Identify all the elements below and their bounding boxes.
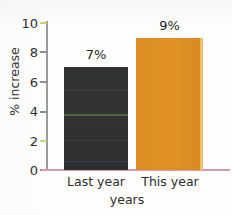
bar-value-label-last-year: 7% <box>64 48 128 62</box>
bar-edge-highlight <box>200 38 203 170</box>
y-tick-mark-8 <box>40 51 47 53</box>
y-axis-line <box>46 21 48 171</box>
scanline-artifact <box>64 140 128 141</box>
x-tick-label-this-year: This year <box>134 174 206 189</box>
scanline-artifact <box>64 90 128 91</box>
scanline-artifact <box>64 114 128 116</box>
x-tick-label-last-year: Last year <box>60 174 132 189</box>
bar-this-year-fill <box>136 38 203 170</box>
y-tick-label-0: 0 <box>12 164 38 177</box>
y-tick-mark-10 <box>40 22 47 24</box>
y-axis-title: % increase <box>7 24 22 140</box>
y-tick-mark-6 <box>40 81 47 83</box>
bar-last-year[interactable] <box>64 67 128 170</box>
bar-value-label-this-year: 9% <box>136 19 203 33</box>
scanline-artifact <box>64 161 128 162</box>
bar-last-year-fill <box>64 67 128 170</box>
chart-title <box>0 0 232 3</box>
bar-chart-figure: 10 8 6 4 2 0 % increase 7% 9% Last year … <box>0 0 232 215</box>
y-tick-mark-4 <box>40 111 47 113</box>
bar-this-year[interactable] <box>136 38 203 170</box>
y-tick-mark-2 <box>40 140 47 142</box>
x-axis-title: years <box>47 192 207 207</box>
